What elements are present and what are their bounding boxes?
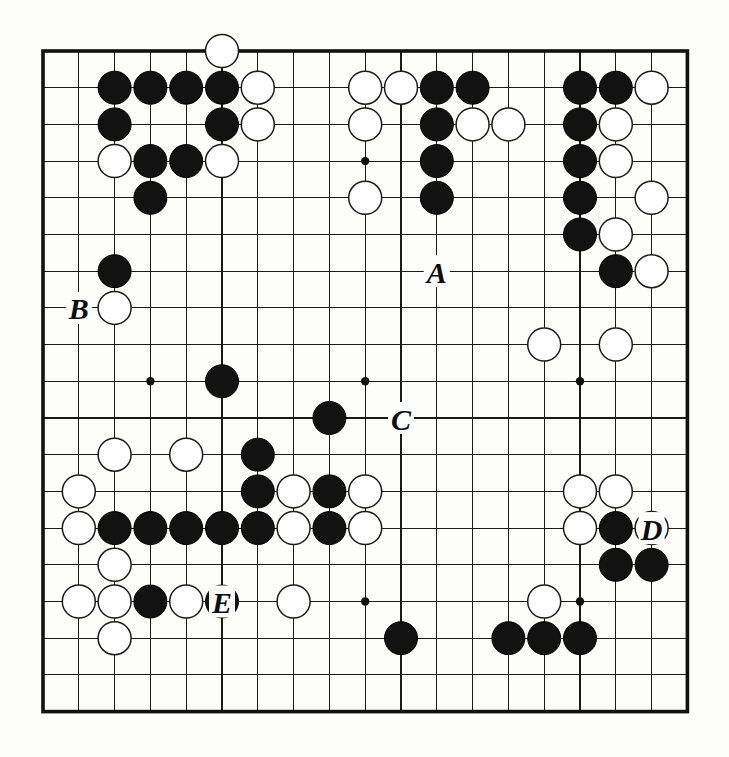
marker-d[interactable]: D [640, 513, 663, 546]
black-stone[interactable] [98, 71, 131, 104]
black-stone[interactable] [206, 108, 239, 141]
white-stone[interactable] [62, 585, 95, 618]
white-stone[interactable] [206, 145, 239, 178]
white-stone[interactable] [564, 475, 597, 508]
marker-c[interactable]: C [391, 403, 412, 436]
white-stone[interactable] [385, 71, 418, 104]
black-stone[interactable] [134, 145, 167, 178]
go-board: ABCDE [0, 0, 729, 757]
star-point [576, 377, 584, 385]
white-stone[interactable] [98, 548, 131, 581]
white-stone[interactable] [635, 181, 668, 214]
white-stone[interactable] [635, 71, 668, 104]
white-stone[interactable] [528, 585, 561, 618]
black-stone[interactable] [134, 71, 167, 104]
black-stone[interactable] [528, 622, 561, 655]
black-stone[interactable] [492, 622, 525, 655]
white-stone[interactable] [599, 108, 632, 141]
star-point [361, 377, 369, 385]
white-stone[interactable] [62, 475, 95, 508]
black-stone[interactable] [241, 438, 274, 471]
black-stone[interactable] [241, 512, 274, 545]
black-stone[interactable] [206, 71, 239, 104]
black-stone[interactable] [134, 585, 167, 618]
white-stone[interactable] [456, 108, 489, 141]
white-stone[interactable] [98, 585, 131, 618]
white-stone[interactable] [98, 291, 131, 324]
black-stone[interactable] [456, 71, 489, 104]
white-stone[interactable] [277, 512, 310, 545]
white-stone[interactable] [349, 512, 382, 545]
white-stone[interactable] [170, 585, 203, 618]
black-stone[interactable] [420, 108, 453, 141]
marker-a[interactable]: A [425, 256, 447, 289]
white-stone[interactable] [349, 475, 382, 508]
black-stone[interactable] [313, 475, 346, 508]
white-stone[interactable] [349, 71, 382, 104]
white-stone[interactable] [599, 145, 632, 178]
black-stone[interactable] [420, 145, 453, 178]
white-stone[interactable] [277, 585, 310, 618]
black-stone[interactable] [564, 218, 597, 251]
black-stone[interactable] [564, 71, 597, 104]
black-stone[interactable] [564, 622, 597, 655]
white-stone[interactable] [241, 71, 274, 104]
black-stone[interactable] [420, 71, 453, 104]
white-stone[interactable] [98, 438, 131, 471]
white-stone[interactable] [599, 475, 632, 508]
black-stone[interactable] [385, 622, 418, 655]
black-stone[interactable] [564, 181, 597, 214]
black-stone[interactable] [635, 548, 668, 581]
black-stone[interactable] [98, 108, 131, 141]
white-stone[interactable] [206, 35, 239, 68]
black-stone[interactable] [599, 512, 632, 545]
star-point [146, 377, 154, 385]
marker-b[interactable]: B [68, 292, 89, 325]
white-stone[interactable] [492, 108, 525, 141]
black-stone[interactable] [170, 145, 203, 178]
black-stone[interactable] [599, 255, 632, 288]
white-stone[interactable] [635, 255, 668, 288]
white-stone[interactable] [564, 512, 597, 545]
white-stone[interactable] [62, 512, 95, 545]
black-stone[interactable] [564, 145, 597, 178]
black-stone[interactable] [170, 512, 203, 545]
white-stone[interactable] [528, 328, 561, 361]
black-stone[interactable] [599, 548, 632, 581]
go-board-canvas: ABCDE [0, 0, 729, 757]
white-stone[interactable] [349, 181, 382, 214]
white-stone[interactable] [349, 108, 382, 141]
page-root: ABCDE [0, 0, 729, 757]
black-stone[interactable] [206, 512, 239, 545]
black-stone[interactable] [206, 365, 239, 398]
white-stone[interactable] [241, 108, 274, 141]
white-stone[interactable] [599, 328, 632, 361]
star-point [361, 157, 369, 165]
black-stone[interactable] [98, 512, 131, 545]
marker-e[interactable]: E [211, 586, 232, 619]
white-stone[interactable] [599, 218, 632, 251]
white-stone[interactable] [277, 475, 310, 508]
black-stone[interactable] [313, 402, 346, 435]
white-stone[interactable] [98, 622, 131, 655]
white-stone[interactable] [170, 438, 203, 471]
black-stone[interactable] [134, 181, 167, 214]
black-stone[interactable] [241, 475, 274, 508]
black-stone[interactable] [564, 108, 597, 141]
black-stone[interactable] [170, 71, 203, 104]
black-stone[interactable] [420, 181, 453, 214]
black-stone[interactable] [98, 255, 131, 288]
white-stone[interactable] [98, 145, 131, 178]
black-stone[interactable] [313, 512, 346, 545]
black-stone[interactable] [134, 512, 167, 545]
star-point [576, 597, 584, 605]
black-stone[interactable] [599, 71, 632, 104]
star-point [361, 597, 369, 605]
